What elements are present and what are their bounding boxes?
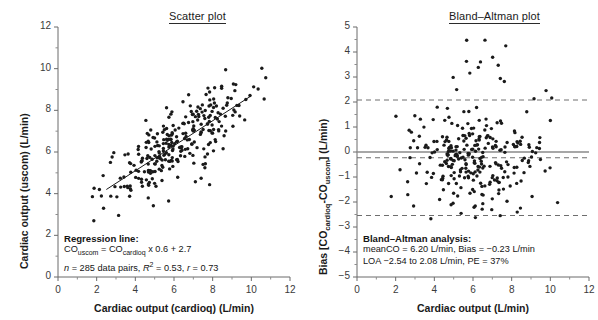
scatter-plot-title: Scatter plot: [0, 10, 347, 22]
scatter-x-tick-6: 6: [162, 284, 186, 295]
regression-statistics: n = 285 data pairs, R2 = 0.53, r = 0.73: [64, 259, 218, 274]
scatter-x-tick-0: 0: [46, 284, 70, 295]
ba-x-tick-2: 2: [384, 284, 408, 295]
ba-x-tick-12: 12: [577, 284, 598, 295]
scatter-plot-x-axis-label: Cardiac output (cardioq) (L/min): [58, 302, 290, 314]
scatter-y-tick-0: 0: [26, 270, 51, 281]
scatter-y-tick-4: 4: [26, 187, 51, 198]
regression-equation: COuscom = COcardioq x 0.6 + 2.7: [64, 244, 218, 258]
ba-y-tick--2: −2: [325, 195, 350, 206]
ba-y-tick-0: 0: [325, 145, 350, 156]
ba-y-tick--3: −3: [325, 220, 350, 231]
ba-x-tick-8: 8: [500, 284, 524, 295]
stats-r-value: = 0.73: [190, 263, 218, 273]
scatter-plot-annotation: Regression line: COuscom = COcardioq x 0…: [64, 233, 218, 274]
ba-y-tick-4: 4: [325, 45, 350, 56]
scatter-points: [91, 67, 268, 223]
equation-coefficients: x 0.6 + 2.7: [146, 244, 192, 254]
bland-altman-plot-title-text: Bland–Altman plot: [449, 10, 540, 24]
ba-y-tick-2: 2: [325, 95, 350, 106]
scatter-x-tick-4: 4: [123, 284, 147, 295]
scatter-x-tick-10: 10: [239, 284, 263, 295]
scatter-plot-title-text: Scatter plot: [169, 10, 226, 24]
equation-equals-co: = CO: [98, 244, 122, 254]
ba-x-tick-10: 10: [538, 284, 562, 295]
bland-altman-analysis-heading: Bland–Altman analysis:: [363, 233, 535, 244]
scatter-y-tick-12: 12: [26, 20, 51, 31]
scatter-y-tick-8: 8: [26, 103, 51, 114]
scatter-y-tick-10: 10: [26, 62, 51, 73]
ba-y-tick-5: 5: [325, 20, 350, 31]
scatter-y-tick-2: 2: [26, 228, 51, 239]
scatter-x-tick-8: 8: [201, 284, 225, 295]
equation-sub-uscom: uscom: [78, 249, 99, 256]
stats-r2-value: = 0.53,: [153, 263, 186, 273]
ba-x-tick-4: 4: [422, 284, 446, 295]
bland-altman-loa-pe-line: LOA −2.54 to 2.08 L/min, PE = 37%: [363, 256, 535, 267]
scatter-plot-panel: Scatter plot Cardiac output (uscom) (L/m…: [0, 0, 299, 320]
ba-y-tick--5: −5: [325, 270, 350, 281]
ba-x-tick-0: 0: [345, 284, 369, 295]
stats-r2-symbol: R: [143, 263, 150, 273]
bland-altman-points: [390, 38, 560, 220]
equation-co-uscom: CO: [64, 244, 78, 254]
scatter-y-tick-6: 6: [26, 145, 51, 156]
ba-y-tick--4: −4: [325, 245, 350, 256]
ba-y-tick--1: −1: [325, 170, 350, 181]
equation-sub-cardioq: cardioq: [123, 249, 146, 256]
bland-altman-x-axis-label: Cardiac output (L/min): [357, 302, 589, 314]
bland-altman-mean-bias-line: meanCO = 6.20 L/min, Bias = −0.23 L/min: [363, 244, 535, 255]
regression-line: [106, 96, 251, 190]
ba-y-tick-3: 3: [325, 70, 350, 81]
figure-container: Scatter plot Cardiac output (uscom) (L/m…: [0, 0, 598, 320]
stats-n-value: = 285 data pairs,: [69, 263, 143, 273]
regression-line-heading: Regression line:: [64, 233, 218, 244]
bland-altman-annotation: Bland–Altman analysis: meanCO = 6.20 L/m…: [363, 233, 535, 267]
scatter-x-tick-2: 2: [85, 284, 109, 295]
ba-y-tick-1: 1: [325, 120, 350, 131]
bland-altman-plot-panel: Bland–Altman plot Bias [COcardioq-COusco…: [299, 0, 598, 320]
ba-x-tick-6: 6: [461, 284, 485, 295]
